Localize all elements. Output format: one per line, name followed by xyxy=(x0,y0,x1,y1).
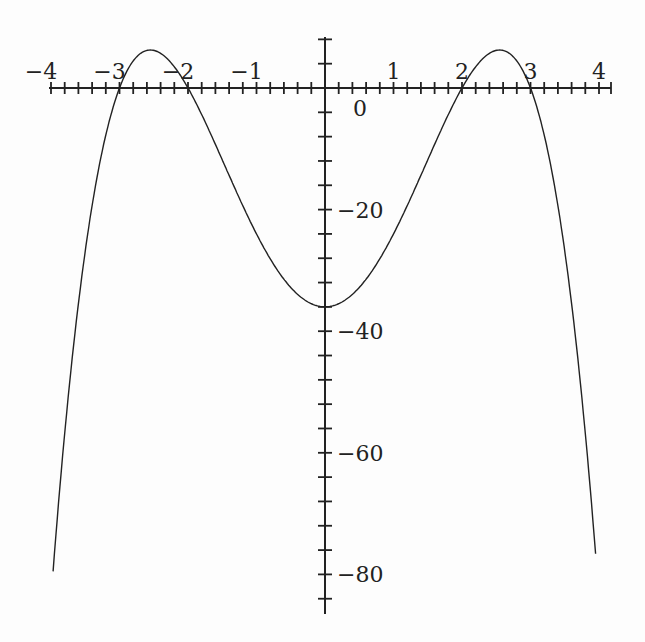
x-tick-label: 4 xyxy=(592,59,606,84)
y-tick-label: −40 xyxy=(337,319,383,344)
y-tick-label: −20 xyxy=(337,198,383,223)
x-tick-label: 1 xyxy=(387,59,401,84)
axes xyxy=(49,37,611,614)
x-tick-label: −1 xyxy=(230,59,262,84)
y-tick-label: 0 xyxy=(353,96,367,121)
x-tick-label: −3 xyxy=(93,59,125,84)
y-tick-label: −80 xyxy=(337,562,383,587)
y-tick-labels: 0−20−40−60−80 xyxy=(337,96,383,587)
x-tick-label: 3 xyxy=(524,59,538,84)
x-tick-label: −4 xyxy=(25,59,57,84)
y-tick-label: −60 xyxy=(337,441,383,466)
function-plot: −4−3−2−11234 0−20−40−60−80 xyxy=(0,0,645,642)
